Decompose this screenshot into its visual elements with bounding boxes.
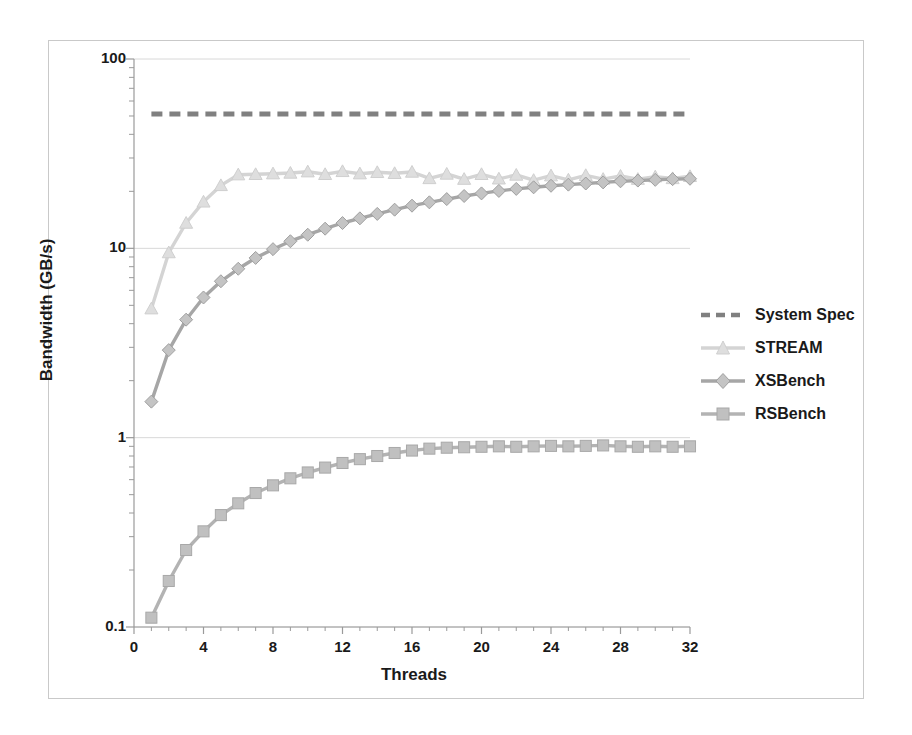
data-point [424, 443, 435, 454]
data-point [250, 488, 261, 499]
legend-swatch-system-spec [700, 304, 746, 326]
data-point [684, 441, 695, 452]
data-point [301, 228, 314, 241]
data-point [145, 395, 158, 408]
data-point [406, 199, 419, 212]
data-point [510, 182, 523, 195]
data-point [598, 440, 609, 451]
data-point [337, 457, 348, 468]
y-tick-label: 10 [40, 238, 126, 255]
data-point [336, 217, 349, 230]
data-point [492, 184, 505, 197]
figure-canvas: Bandwidth (GB/s) Threads 0.1110100 04812… [0, 0, 912, 735]
data-point [145, 302, 158, 314]
legend-item-stream[interactable]: STREAM [700, 331, 855, 364]
series-stream [145, 165, 697, 314]
data-point [284, 235, 297, 248]
x-tick-label: 20 [452, 638, 512, 655]
data-point [388, 203, 401, 216]
data-point [458, 189, 471, 202]
legend-label-system-spec: System Spec [755, 306, 855, 324]
data-point [353, 212, 366, 225]
data-point [545, 440, 556, 451]
data-point [615, 441, 626, 452]
x-tick-label: 16 [382, 638, 442, 655]
chart-legend: System Spec STREAM XSBench RSBench [700, 298, 855, 430]
data-point [302, 467, 313, 478]
data-point [650, 441, 661, 452]
data-point [667, 441, 678, 452]
axis-lines [126, 59, 690, 634]
data-point [198, 526, 209, 537]
grid-lines [134, 59, 690, 627]
y-tick-label: 0.1 [40, 617, 126, 634]
data-point [406, 445, 417, 456]
y-tick-label: 1 [40, 428, 126, 445]
data-point [267, 243, 280, 256]
x-tick-label: 4 [174, 638, 234, 655]
x-tick-label: 8 [243, 638, 303, 655]
data-point [632, 441, 643, 452]
data-point [233, 498, 244, 509]
data-point [459, 442, 470, 453]
x-tick-label: 32 [660, 638, 720, 655]
legend-swatch-xsbench [700, 370, 746, 392]
legend-swatch-stream [700, 337, 746, 359]
data-point [181, 545, 192, 556]
data-point [163, 575, 174, 586]
x-tick-label: 24 [521, 638, 581, 655]
x-axis-title: Threads [134, 665, 694, 685]
data-point [319, 222, 332, 235]
data-point [267, 480, 278, 491]
data-point [440, 167, 453, 179]
data-point [476, 441, 487, 452]
data-point [493, 441, 504, 452]
legend-label-xsbench: XSBench [755, 372, 825, 390]
x-tick-label: 0 [104, 638, 164, 655]
legend-label-rsbench: RSBench [755, 405, 826, 423]
data-point [146, 612, 157, 623]
data-point [580, 440, 591, 451]
x-tick-label: 12 [313, 638, 373, 655]
series-xsbench [145, 172, 697, 408]
data-point [440, 193, 453, 206]
data-point [528, 441, 539, 452]
legend-item-rsbench[interactable]: RSBench [700, 397, 855, 430]
data-point [423, 196, 436, 209]
data-point [215, 510, 226, 521]
data-point [372, 450, 383, 461]
data-point [320, 462, 331, 473]
data-point [649, 173, 662, 186]
data-point [631, 174, 644, 187]
x-tick-label: 28 [591, 638, 651, 655]
series-rsbench [146, 440, 696, 623]
legend-label-stream: STREAM [755, 339, 823, 357]
data-point [371, 207, 384, 220]
data-point [563, 441, 574, 452]
data-point [354, 454, 365, 465]
data-point [684, 172, 697, 185]
data-series-group [145, 114, 697, 623]
y-tick-label: 100 [40, 49, 126, 66]
legend-item-xsbench[interactable]: XSBench [700, 364, 855, 397]
data-point [389, 447, 400, 458]
data-point [475, 168, 488, 180]
data-point [475, 187, 488, 200]
data-point [441, 442, 452, 453]
legend-swatch-rsbench [700, 403, 746, 425]
data-point [511, 441, 522, 452]
y-axis-title: Bandwidth (GB/s) [37, 200, 57, 420]
legend-item-system-spec[interactable]: System Spec [700, 298, 855, 331]
data-point [285, 473, 296, 484]
